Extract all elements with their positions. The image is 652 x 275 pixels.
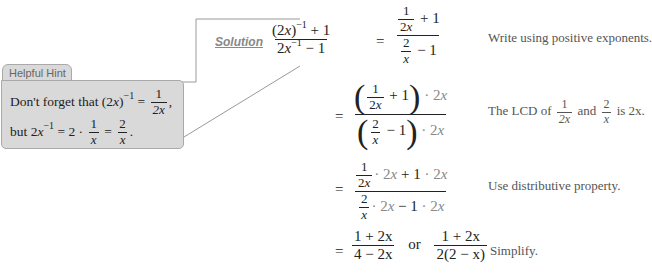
result-fraction-2: 1 + 2x2(2 − x) bbox=[434, 228, 486, 264]
or-text: or bbox=[408, 236, 421, 252]
hint-box: Don't forget that (2x)−1 = 12x, but 2x−1… bbox=[1, 80, 184, 149]
lhs-fraction: (2x)−1 + 1 2x−1 − 1 bbox=[270, 22, 332, 58]
step-4-expr: 1 + 2x4 − 2x or 1 + 2x2(2 − x) bbox=[350, 228, 489, 264]
hint-line-2: but 2x−1 = 2 · 1x = 2x. bbox=[10, 117, 133, 148]
hint-expr: (2x)−1 bbox=[102, 94, 134, 109]
solution-label: Solution bbox=[215, 35, 263, 49]
step-3-eq: = bbox=[335, 181, 343, 198]
step-1-lhs: (2x)−1 + 1 2x−1 − 1 bbox=[268, 22, 334, 58]
hint-expr: 2x−1 bbox=[31, 124, 54, 139]
hint-text: but bbox=[10, 124, 27, 139]
result-fraction-1: 1 + 2x4 − 2x bbox=[352, 228, 394, 264]
step-2-note: The LCD of 12x and 2x is 2x. bbox=[488, 98, 645, 127]
step-1-rhs: 12x + 1 2x − 1 bbox=[392, 4, 444, 67]
step-3-note: Use distributive property. bbox=[488, 178, 620, 194]
step-4-eq: = bbox=[335, 243, 343, 260]
lcd-fraction: (12x + 1) · 2x (2x − 1) · 2x bbox=[352, 80, 449, 149]
step-3-expr: 12x· 2x + 1 · 2x 2x· 2x − 1 · 2x bbox=[350, 160, 451, 223]
fraction: 2x bbox=[117, 117, 128, 148]
hint-text: Don't forget that bbox=[10, 94, 98, 109]
complex-fraction: 12x + 1 2x − 1 bbox=[394, 4, 442, 67]
step-4-note: Simplify. bbox=[490, 243, 538, 259]
fraction: 1x bbox=[88, 117, 99, 148]
step-1-note: Write using positive exponents. bbox=[488, 30, 652, 46]
step-2-expr: (12x + 1) · 2x (2x − 1) · 2x bbox=[350, 80, 451, 149]
step-1-eq: = bbox=[376, 33, 384, 50]
equals: = bbox=[138, 94, 146, 109]
hint-tab: Helpful Hint bbox=[2, 64, 72, 81]
fraction: 12x bbox=[151, 87, 167, 118]
step-2-eq: = bbox=[335, 108, 343, 125]
distributed-fraction: 12x· 2x + 1 · 2x 2x· 2x − 1 · 2x bbox=[352, 160, 449, 223]
hint-line-1: Don't forget that (2x)−1 = 12x, bbox=[10, 87, 172, 118]
